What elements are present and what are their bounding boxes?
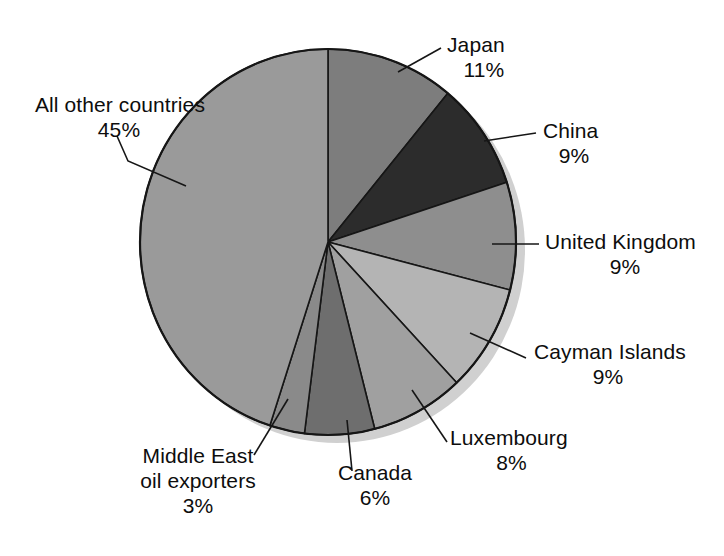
label-middle-east-name-line2: oil exporters — [133, 468, 263, 493]
label-china-value: 9% — [543, 143, 605, 168]
label-japan-name: Japan — [447, 33, 505, 56]
label-canada-value: 6% — [337, 485, 413, 510]
label-luxembourg-name: Luxembourg — [450, 426, 568, 449]
label-middle-east-value: 3% — [133, 493, 263, 518]
label-china: China 9% — [543, 118, 605, 168]
label-all-other-countries: All other countries 45% — [35, 92, 203, 142]
leader-line-japan — [398, 48, 441, 72]
label-canada-name: Canada — [338, 461, 412, 484]
label-all-other-countries-value: 45% — [35, 117, 203, 142]
label-canada: Canada 6% — [337, 460, 413, 510]
label-cayman-islands: Cayman Islands 9% — [534, 339, 686, 389]
label-japan-value: 11% — [447, 57, 521, 82]
label-cayman-islands-name: Cayman Islands — [534, 340, 686, 363]
label-luxembourg: Luxembourg 8% — [450, 425, 573, 475]
label-middle-east-oil-exporters: Middle East oil exporters 3% — [133, 443, 263, 518]
label-united-kingdom: United Kingdom 9% — [545, 229, 705, 279]
label-cayman-islands-value: 9% — [534, 364, 682, 389]
label-luxembourg-value: 8% — [450, 450, 573, 475]
leader-line-china — [484, 133, 536, 141]
label-united-kingdom-value: 9% — [545, 254, 705, 279]
label-japan: Japan 11% — [447, 32, 521, 82]
label-all-other-countries-name: All other countries — [35, 93, 205, 116]
label-middle-east-name-line1: Middle East — [143, 444, 254, 467]
chart-canvas: Japan 11% China 9% United Kingdom 9% Cay… — [0, 0, 724, 556]
label-china-name: China — [543, 119, 598, 142]
label-united-kingdom-name: United Kingdom — [545, 230, 696, 253]
